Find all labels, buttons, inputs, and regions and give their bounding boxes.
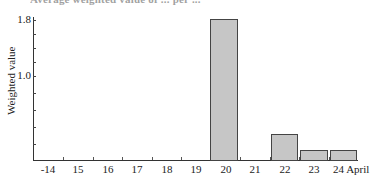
x-tick-label: 15 <box>63 163 93 175</box>
x-tick <box>240 157 241 160</box>
y-tick <box>33 20 36 21</box>
x-tick-label: 17 <box>122 163 152 175</box>
y-axis <box>33 17 34 161</box>
y-tick <box>33 62 36 63</box>
bar-23 <box>300 150 328 161</box>
bar-24 <box>330 150 357 161</box>
x-tick-label: 18 <box>152 163 182 175</box>
y-tick <box>33 93 36 94</box>
x-tick-label: 20 <box>211 163 241 175</box>
y-tick <box>33 34 36 35</box>
chart-title: Average weighted value of ... per ... <box>30 0 201 5</box>
x-tick-label: 22 <box>270 163 300 175</box>
bar-22 <box>271 134 298 161</box>
x-tick <box>152 157 153 160</box>
y-tick <box>33 76 36 77</box>
x-tick-label: 24 April <box>329 163 377 175</box>
x-tick <box>63 157 64 160</box>
y-tick <box>33 144 36 145</box>
x-tick <box>122 157 123 160</box>
y-tick <box>33 110 36 111</box>
bar-20 <box>210 19 238 161</box>
x-tick <box>93 157 94 160</box>
y-axis-title: Weighted value <box>5 47 17 115</box>
y-tick <box>33 127 36 128</box>
y-tick-label: 1.8 <box>17 14 31 25</box>
y-tick-label: 1.0 <box>17 70 31 81</box>
x-tick-label: 19 <box>181 163 211 175</box>
x-tick-label: -14 <box>33 163 63 175</box>
x-tick <box>181 157 182 160</box>
x-tick-label: 21 <box>240 163 270 175</box>
x-tick-label: 16 <box>93 163 123 175</box>
x-tick-label: 23 <box>299 163 329 175</box>
y-tick <box>33 48 36 49</box>
